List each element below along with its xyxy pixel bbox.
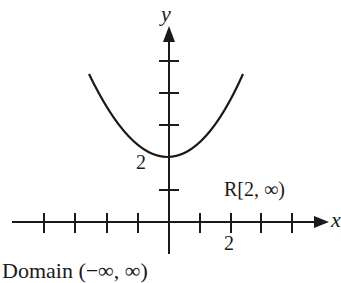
- domain-annotation: Domain (−∞, ∞): [2, 260, 148, 282]
- x-tick-label-2: 2: [224, 233, 234, 253]
- x-axis-arrow-icon: [314, 216, 329, 228]
- y-tick-label-2: 2: [136, 152, 146, 172]
- y-axis-arrow-icon: [163, 26, 175, 42]
- y-axis-label: y: [161, 3, 171, 25]
- range-annotation: R[2, ∞): [224, 179, 285, 199]
- x-axis-label: x: [331, 209, 341, 231]
- parabola-curve: [89, 74, 243, 157]
